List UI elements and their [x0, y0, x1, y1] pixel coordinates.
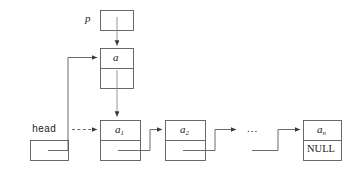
node-a2-subscript: 2 — [186, 129, 189, 136]
linked-list-diagram — [0, 0, 351, 170]
link-a1-to-a2 — [118, 130, 162, 151]
node-a1-data-label: a1 — [115, 123, 124, 136]
link-a2-to-ellipsis — [183, 130, 236, 151]
node-an-data-label: an — [317, 123, 326, 136]
link-ellipsis-to-an — [252, 130, 300, 151]
node-a2-data-label: a2 — [180, 123, 189, 136]
new-node-data-label: a — [113, 51, 119, 63]
node-an-subscript: n — [323, 129, 326, 136]
head-pointer-path — [48, 58, 97, 151]
ellipsis-label: ... — [247, 122, 258, 134]
head-label: head — [32, 124, 56, 135]
pointer-p-label: p — [85, 12, 91, 24]
node-an-null-label: NULL — [307, 143, 335, 154]
node-a1-subscript: 1 — [121, 129, 124, 136]
